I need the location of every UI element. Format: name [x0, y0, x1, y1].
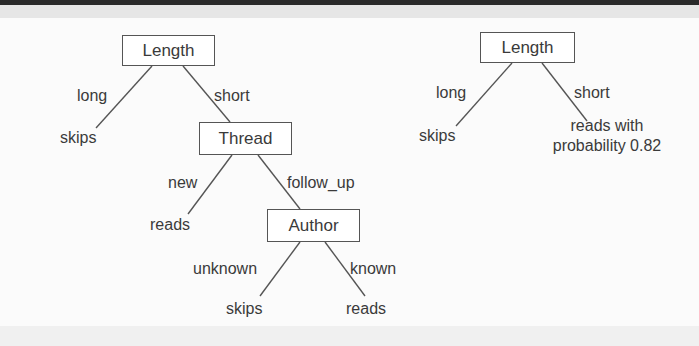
leaf-reads: reads: [150, 216, 190, 234]
leaf-skips-right: skips: [419, 127, 455, 145]
leaf-skips: skips: [60, 129, 96, 147]
edge-label-short: short: [214, 87, 250, 105]
edge-label-short-right: short: [574, 84, 610, 102]
node-author: Author: [267, 209, 360, 242]
edge-label-long: long: [77, 87, 107, 105]
leaf-reads-probability: reads with probability 0.82: [532, 116, 682, 156]
leaf-skips-unknown: skips: [226, 300, 262, 318]
tree-edges: [0, 0, 699, 346]
leaf-reads-known: reads: [346, 300, 386, 318]
edge-label-unknown: unknown: [193, 260, 257, 278]
edge-label-long-right: long: [436, 84, 466, 102]
node-length-right: Length: [480, 32, 575, 63]
leaf-reads-line1: reads with: [532, 116, 682, 136]
edge-label-new: new: [168, 174, 197, 192]
leaf-reads-line2: probability 0.82: [532, 136, 682, 156]
edge-unknown: [260, 242, 300, 296]
edge-label-follow-up: follow_up: [287, 174, 355, 192]
node-thread: Thread: [199, 122, 292, 155]
node-length: Length: [122, 35, 215, 66]
edge-label-known: known: [350, 260, 396, 278]
